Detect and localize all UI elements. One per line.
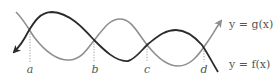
- label-d: d: [200, 63, 207, 76]
- curve-g: [16, 12, 221, 66]
- label-a: a: [27, 63, 34, 76]
- curves-diagram: a b c d y = g(x) y = f(x): [0, 0, 277, 81]
- label-c: c: [144, 63, 150, 76]
- label-g-equation: y = g(x): [228, 18, 273, 31]
- label-b: b: [91, 63, 98, 76]
- label-f-equation: y = f(x): [228, 58, 270, 71]
